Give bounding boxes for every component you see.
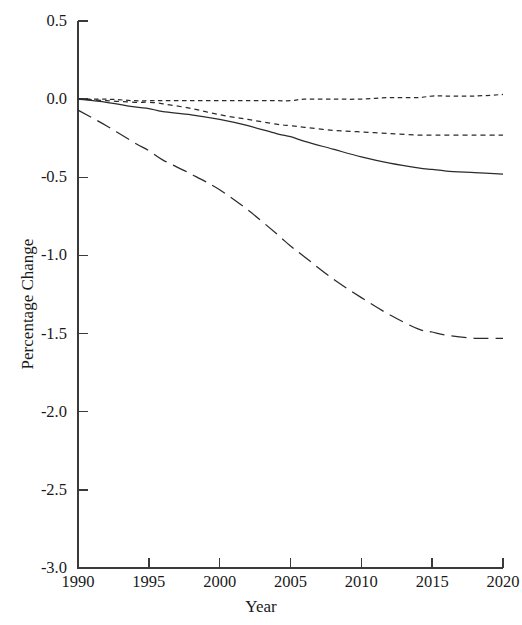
x-axis-tick-label: 2005 [251, 574, 331, 591]
x-axis-title: Year [0, 597, 522, 617]
series-group [78, 94, 503, 338]
x-axis-ticks [78, 558, 503, 568]
x-axis-tick-label: 2015 [392, 574, 472, 591]
x-axis-tick-label: 1990 [38, 574, 118, 591]
axis-frame [78, 21, 503, 568]
plot-area [0, 0, 522, 625]
y-axis-tick-label: 0.0 [0, 91, 67, 108]
line-chart: 0.50.0-0.5-1.0-1.5-2.0-2.5-3.0 199019952… [0, 0, 522, 625]
y-axis-tick-label: -2.5 [0, 482, 67, 499]
y-axis-tick-label: 0.5 [0, 13, 67, 30]
series-line-series-3 [78, 99, 503, 174]
x-axis-tick-label: 2000 [180, 574, 260, 591]
series-line-series-2 [78, 99, 503, 135]
x-axis-tick-label: 1995 [109, 574, 189, 591]
y-axis-ticks [78, 21, 88, 568]
series-line-series-4 [78, 110, 503, 338]
y-axis-title: Percentage Change [18, 184, 38, 424]
x-axis-tick-label: 2010 [321, 574, 401, 591]
axes-group [78, 21, 503, 568]
series-line-series-1 [78, 94, 503, 100]
x-axis-tick-label: 2020 [463, 574, 522, 591]
